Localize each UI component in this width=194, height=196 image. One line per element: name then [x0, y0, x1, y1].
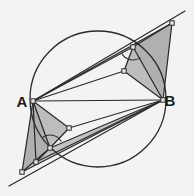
figure-canvas: AB — [0, 0, 194, 196]
node-p4 — [122, 69, 126, 73]
node-q1 — [20, 170, 24, 174]
ray-a-to-p3 — [33, 47, 133, 101]
node-p3 — [131, 45, 135, 49]
node-q5 — [34, 160, 38, 164]
ray-b-to-q3 — [50, 100, 163, 148]
geometry-figure: AB — [0, 0, 194, 196]
chord-ab — [33, 100, 163, 101]
node-p1 — [170, 21, 174, 25]
node-q4 — [67, 126, 71, 130]
node-a — [31, 99, 35, 103]
node-q3 — [48, 146, 52, 150]
point-label-a: A — [17, 93, 28, 110]
point-label-b: B — [165, 92, 176, 109]
